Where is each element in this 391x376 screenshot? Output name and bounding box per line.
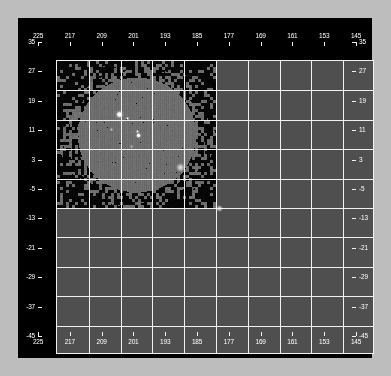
y-tick-label-right: 3: [359, 156, 362, 163]
tick-mark: [352, 189, 356, 190]
bright-source-source-a: [176, 163, 185, 172]
tick-mark: [352, 101, 356, 102]
y-tick-label-right: -29: [359, 274, 368, 281]
x-tick-label-bottom: 145: [351, 339, 361, 346]
y-tick-label-left: -21: [18, 245, 35, 252]
tick-mark: [38, 307, 42, 308]
y-tick-label-right: -21: [359, 245, 368, 252]
x-tick-label-top: 169: [255, 33, 265, 40]
x-tick-label-bottom: 185: [192, 339, 202, 346]
y-tick-label-right: -45: [359, 333, 368, 340]
tick-mark: [38, 277, 42, 278]
y-tick-label-left: 27: [18, 68, 35, 75]
y-tick-label-right: -5: [359, 186, 364, 193]
tick-mark: [292, 42, 293, 46]
tick-mark: [133, 332, 134, 336]
gridline-vertical: [152, 61, 153, 353]
x-tick-label-bottom: 153: [319, 339, 329, 346]
y-tick-label-right: 27: [359, 68, 366, 75]
x-tick-label-top: 217: [65, 33, 75, 40]
y-tick-label-left: 3: [18, 156, 35, 163]
x-tick-label-bottom: 217: [65, 339, 75, 346]
x-tick-label-top: 185: [192, 33, 202, 40]
tick-mark: [38, 189, 42, 190]
x-tick-label-top: 193: [160, 33, 170, 40]
x-tick-label-bottom: 209: [96, 339, 106, 346]
x-tick-label-top: 153: [319, 33, 329, 40]
tick-mark: [352, 277, 356, 278]
gridline-horizontal: [57, 296, 373, 297]
x-tick-label-top: 161: [287, 33, 297, 40]
tick-mark: [102, 42, 103, 46]
tick-mark: [38, 42, 42, 43]
tick-mark: [102, 332, 103, 336]
tick-mark: [324, 42, 325, 46]
tick-mark: [352, 336, 356, 337]
tick-mark: [70, 332, 71, 336]
y-tick-label-left: 11: [18, 127, 35, 134]
gridline-horizontal: [57, 179, 373, 180]
tick-mark: [70, 42, 71, 46]
x-tick-label-bottom: 201: [128, 339, 138, 346]
tick-mark: [356, 42, 357, 46]
tick-mark: [197, 332, 198, 336]
y-tick-label-left: 19: [18, 98, 35, 105]
y-tick-label-left: -45: [18, 333, 35, 340]
tick-mark: [38, 71, 42, 72]
y-tick-label-left: -29: [18, 274, 35, 281]
tick-mark: [352, 130, 356, 131]
tick-mark: [352, 71, 356, 72]
tick-mark: [261, 42, 262, 46]
gridline-horizontal: [57, 120, 373, 121]
tick-mark: [133, 42, 134, 46]
tick-mark: [324, 332, 325, 336]
y-tick-label-left: -37: [18, 303, 35, 310]
x-tick-label-top: 201: [128, 33, 138, 40]
tick-mark: [165, 42, 166, 46]
tick-mark: [352, 160, 356, 161]
gridline-vertical: [311, 61, 312, 353]
x-tick-label-bottom: 177: [224, 339, 234, 346]
gridline-vertical: [184, 61, 185, 353]
image-panel: 2252252172172092092012011931931851851771…: [18, 18, 372, 358]
y-tick-label-right: -13: [359, 215, 368, 222]
tick-mark: [229, 332, 230, 336]
y-tick-label-right: 35: [359, 39, 366, 46]
y-tick-label-right: 19: [359, 98, 366, 105]
y-tick-label-right: -37: [359, 303, 368, 310]
tick-mark: [38, 248, 42, 249]
tick-mark: [352, 218, 356, 219]
y-tick-label-right: 11: [359, 127, 365, 134]
plot-frame: [56, 60, 374, 354]
gridline-vertical: [89, 61, 90, 353]
x-tick-label-top: 177: [224, 33, 234, 40]
tick-mark: [352, 307, 356, 308]
tick-mark: [356, 332, 357, 336]
x-tick-label-top: 209: [96, 33, 106, 40]
bright-source-source-b: [216, 205, 223, 212]
x-tick-label-bottom: 161: [287, 339, 297, 346]
y-tick-label-left: 35: [18, 39, 35, 46]
screenshot-root: 2252252172172092092012011931931851851771…: [0, 0, 391, 376]
tick-mark: [197, 42, 198, 46]
gridline-vertical: [280, 61, 281, 353]
y-tick-label-left: -13: [18, 215, 35, 222]
tick-mark: [229, 42, 230, 46]
tick-mark: [261, 332, 262, 336]
gridline-horizontal: [57, 90, 373, 91]
sky-image-canvas: [57, 61, 216, 208]
x-tick-label-bottom: 193: [160, 339, 170, 346]
tick-mark: [165, 332, 166, 336]
y-tick-label-left: -5: [18, 186, 35, 193]
gridline-horizontal: [57, 237, 373, 238]
gridline-horizontal: [57, 149, 373, 150]
gridline-vertical: [248, 61, 249, 353]
x-tick-label-bottom: 169: [255, 339, 265, 346]
gridline-vertical: [121, 61, 122, 353]
tick-mark: [38, 160, 42, 161]
gridline-horizontal: [57, 208, 373, 209]
tick-mark: [292, 332, 293, 336]
tick-mark: [38, 336, 42, 337]
x-tick-label-bottom: 225: [33, 339, 43, 346]
tick-mark: [352, 248, 356, 249]
